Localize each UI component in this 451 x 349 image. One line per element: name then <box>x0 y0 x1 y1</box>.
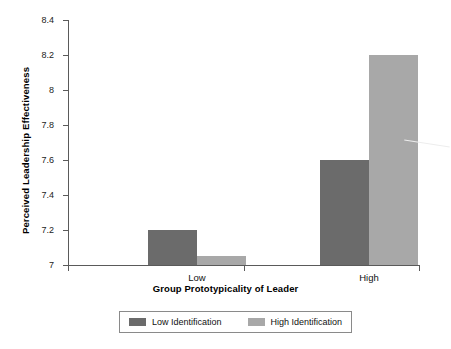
y-axis-tick: 8 <box>63 90 68 91</box>
y-axis-tick: 7.8 <box>63 125 68 126</box>
y-axis-tick-label: 7.8 <box>41 120 54 130</box>
legend-label: High Identification <box>271 317 343 327</box>
legend-label: Low Identification <box>152 317 222 327</box>
y-axis-tick-label: 7.2 <box>41 225 54 235</box>
legend-swatch <box>248 318 265 326</box>
x-axis-tick <box>419 266 420 271</box>
chart-legend: Low IdentificationHigh Identification <box>119 311 352 333</box>
y-axis-line <box>68 20 69 266</box>
y-axis-tick: 7.4 <box>63 195 68 196</box>
bar <box>369 55 418 265</box>
y-axis-tick-label: 8.4 <box>41 15 54 25</box>
y-axis-tick-label: 7.4 <box>41 190 54 200</box>
legend-entry: High Identification <box>248 317 343 327</box>
x-axis-title: Group Prototypicality of Leader <box>0 283 451 294</box>
y-axis-tick: 7.2 <box>63 230 68 231</box>
bar <box>320 160 369 265</box>
bar-chart-figure: Perceived Leadership Effectiveness 77.27… <box>0 0 451 349</box>
y-axis-tick-label: 7 <box>49 260 54 270</box>
x-axis-tick <box>244 266 245 271</box>
y-axis-tick: 8.4 <box>63 20 68 21</box>
y-axis-tick-label: 7.6 <box>41 155 54 165</box>
plot-area: 77.27.47.67.888.28.4 LowHigh <box>68 20 420 266</box>
legend-entry: Low Identification <box>129 317 222 327</box>
bar <box>148 230 197 265</box>
y-axis-tick-label: 8.2 <box>41 50 54 60</box>
y-axis-title: Perceived Leadership Effectiveness <box>20 31 31 271</box>
y-axis-tick: 7.6 <box>63 160 68 161</box>
y-axis-tick-label: 8 <box>49 85 54 95</box>
legend-swatch <box>129 318 146 326</box>
x-axis-tick <box>68 266 69 271</box>
bar <box>197 256 246 265</box>
y-axis-tick: 8.2 <box>63 55 68 56</box>
x-axis-tick-label: Low <box>188 272 205 283</box>
x-axis-tick-label: High <box>359 272 379 283</box>
